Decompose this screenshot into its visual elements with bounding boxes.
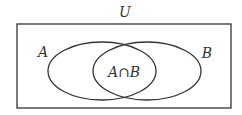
intersection-label: A∩B [106, 64, 140, 80]
venn-diagram: U A B A∩B [0, 0, 242, 115]
set-a-label: A [36, 44, 48, 60]
universe-label: U [119, 4, 132, 20]
set-b-label: B [201, 45, 212, 61]
